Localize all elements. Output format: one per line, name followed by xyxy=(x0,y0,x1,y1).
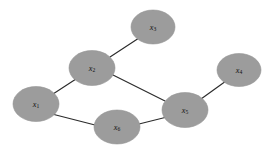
graph-node-x1[interactable]: x1 xyxy=(13,87,59,122)
graph-canvas: x1x2x3x4x5x6 xyxy=(0,0,278,153)
graph-node-x4[interactable]: x4 xyxy=(217,54,261,87)
edge-x1-x2 xyxy=(53,79,76,94)
edge-x2-x5 xyxy=(113,75,165,101)
graph-node-x3[interactable]: x3 xyxy=(131,10,175,44)
graph-node-x6[interactable]: x6 xyxy=(94,110,140,144)
edge-x2-x3 xyxy=(110,38,139,57)
node-layer: x1x2x3x4x5x6 xyxy=(13,10,261,144)
edge-x6-x5 xyxy=(139,117,167,124)
edge-x1-x6 xyxy=(52,114,95,125)
graph-node-x5[interactable]: x5 xyxy=(162,93,208,128)
graph-figure: x1x2x3x4x5x6 xyxy=(0,0,278,153)
graph-node-x2[interactable]: x2 xyxy=(69,51,115,86)
edge-x5-x4 xyxy=(201,81,226,99)
